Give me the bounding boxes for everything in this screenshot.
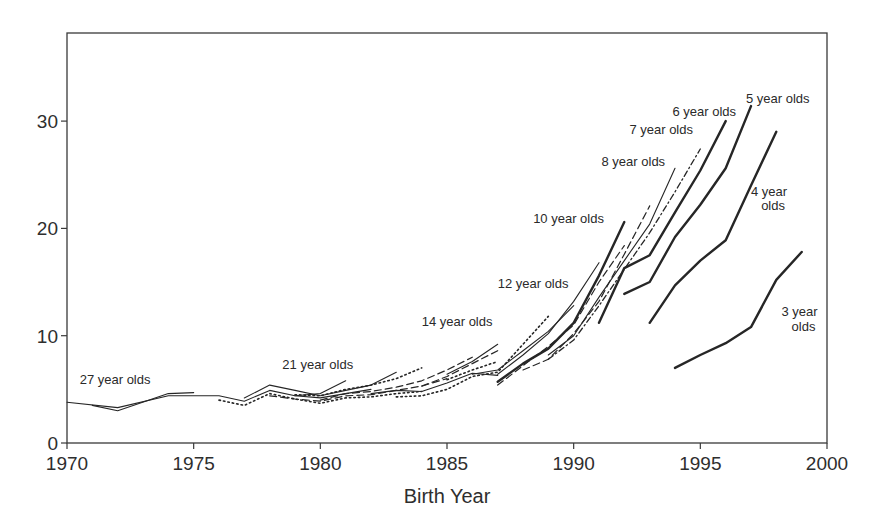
series-annotation: olds <box>792 319 816 334</box>
x-tick-label: 2000 <box>806 453 848 474</box>
x-tick-label: 1975 <box>173 453 215 474</box>
series-line-10-year-olds <box>498 222 625 382</box>
series-annotation: 7 year olds <box>629 122 693 137</box>
series-annotation: 27 year olds <box>80 372 151 387</box>
series-line-4-year-olds <box>650 132 777 323</box>
x-tick-label: 1970 <box>46 453 88 474</box>
series-annotation: 12 year olds <box>498 276 569 291</box>
y-tick-label: 30 <box>37 111 58 132</box>
series-lines <box>67 106 802 411</box>
y-tick-label: 20 <box>37 218 58 239</box>
series-line-19-year-olds <box>371 373 498 393</box>
x-tick-label: 1980 <box>299 453 341 474</box>
series-annotation: olds <box>761 198 785 213</box>
plot-frame <box>67 33 827 443</box>
series-line-8-year-olds <box>548 168 675 355</box>
x-tick-label: 1985 <box>426 453 468 474</box>
birth-year-line-chart: 1970197519801985199019952000 0102030 Bir… <box>0 0 878 531</box>
x-axis-ticks: 1970197519801985199019952000 <box>46 443 848 474</box>
y-axis-ticks: 0102030 <box>37 111 67 454</box>
series-labels: 27 year olds21 year olds14 year olds12 y… <box>80 91 819 387</box>
series-annotation: 5 year olds <box>746 91 810 106</box>
y-tick-label: 10 <box>37 326 58 347</box>
series-annotation: 21 year olds <box>282 357 353 372</box>
series-annotation: 14 year olds <box>422 314 493 329</box>
series-annotation: 3 year <box>781 304 818 319</box>
series-line-6-year-olds <box>599 121 726 323</box>
x-axis-title: Birth Year <box>404 485 491 507</box>
y-tick-label: 0 <box>47 433 58 454</box>
series-line-11-year-olds <box>498 246 625 386</box>
series-annotation: 4 year <box>751 184 788 199</box>
series-annotation: 10 year olds <box>533 211 604 226</box>
x-tick-label: 1995 <box>679 453 721 474</box>
x-tick-label: 1990 <box>553 453 595 474</box>
series-annotation: 6 year olds <box>672 104 736 119</box>
series-annotation: 8 year olds <box>602 154 666 169</box>
series-line-21-year-olds <box>295 381 346 396</box>
